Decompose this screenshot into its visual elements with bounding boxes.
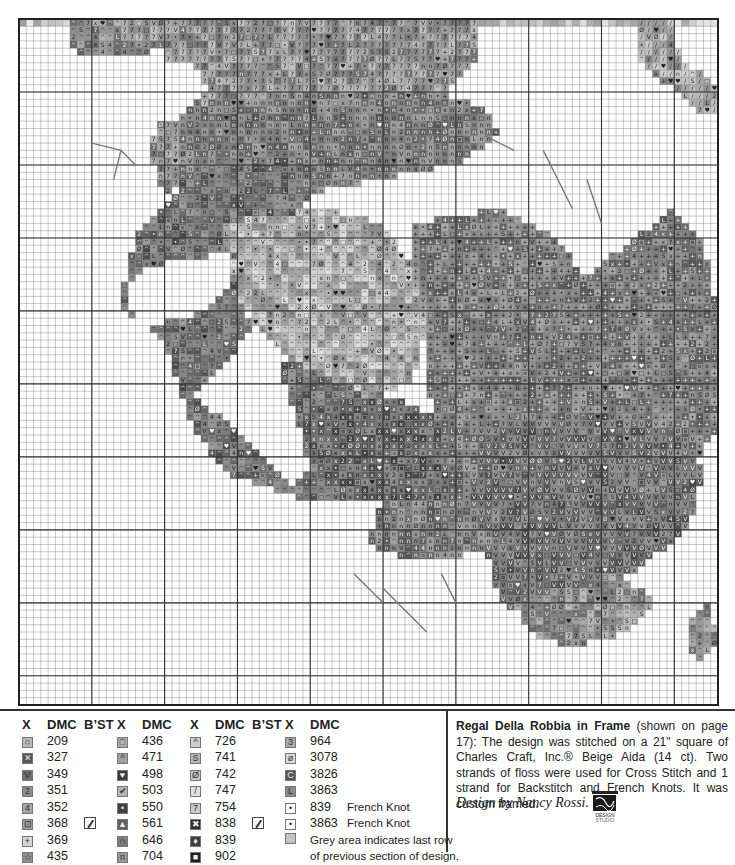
floss-symbol-icon: Ø: [190, 770, 201, 781]
legend-item: ^471: [117, 749, 179, 766]
legend-item: ■902: [190, 848, 282, 865]
dmc-number: 550: [142, 800, 179, 814]
dmc-number: 503: [142, 783, 179, 797]
floss-symbol-icon: [285, 833, 296, 844]
floss-symbol-icon: п: [117, 852, 128, 863]
dmc-number: 838: [215, 816, 252, 830]
floss-symbol-icon: ♦: [190, 836, 201, 847]
floss-symbol-icon: C: [285, 770, 296, 781]
legend-note: French Knot: [347, 801, 410, 813]
designer-byline: Design by Nancy Rossi.: [456, 795, 589, 811]
floss-symbol-icon: ø: [285, 753, 296, 764]
floss-symbol-icon: •: [285, 803, 296, 814]
legend-header-x: X: [117, 717, 142, 732]
legend-header: XDMC: [117, 716, 179, 733]
legend-item: ♦839: [190, 832, 282, 849]
legend-note: French Knot: [347, 817, 410, 829]
legend-item: of previous section of design.: [285, 848, 459, 865]
dmc-number: 327: [47, 750, 84, 764]
legend-item: ✖838: [190, 815, 282, 832]
floss-symbol-icon: 7: [190, 803, 201, 814]
dmc-number: 742: [215, 767, 252, 781]
legend-header: XDMC: [285, 716, 459, 733]
dmc-number: 839: [215, 833, 252, 847]
floss-symbol-icon: ☆: [22, 852, 33, 863]
legend-item: +369: [22, 832, 114, 849]
dmc-number: 902: [215, 849, 252, 863]
legend-item: ✔503: [117, 782, 179, 799]
floss-symbol-icon: ■: [190, 852, 201, 863]
dmc-number: 726: [215, 734, 252, 748]
dmc-number: 741: [215, 750, 252, 764]
legend-item: ☆435: [22, 848, 114, 865]
legend-item: ✕327: [22, 749, 114, 766]
legend-item: L3863: [285, 782, 459, 799]
legend-item: S741: [190, 749, 282, 766]
floss-symbol-icon: ✕: [22, 753, 33, 764]
floss-symbol-icon: •: [117, 803, 128, 814]
legend-item: □436: [117, 733, 179, 750]
dmc-number: 561: [142, 816, 179, 830]
legend-item: ♥498: [117, 766, 179, 783]
floss-symbol-icon: S: [190, 753, 201, 764]
legend-header-dmc: DMC: [142, 717, 179, 732]
legend-item: Ø742: [190, 766, 282, 783]
legend-header: XDMCB’ST: [22, 716, 114, 733]
legend-item: •550: [117, 799, 179, 816]
floss-symbol-icon: 3: [285, 737, 296, 748]
legend-column: XDMCB’ST^726S741Ø742/7477754✖838♦839■902: [190, 716, 282, 865]
dmc-number: 3826: [310, 767, 347, 781]
legend-header-x: X: [22, 717, 47, 732]
legend-column: XDMC3964ø3078C3826L3863•839French Knot•3…: [285, 716, 459, 865]
legend-item: 3964: [285, 733, 459, 750]
floss-symbol-icon: •: [285, 819, 296, 830]
floss-symbol-icon: 2: [22, 786, 33, 797]
legend-column: XDMCB’ST○209✕327V34923514352⊡368+369☆435: [22, 716, 114, 865]
legend-item: 2351: [22, 782, 114, 799]
dmc-number: 471: [142, 750, 179, 764]
floss-symbol-icon: ^: [117, 753, 128, 764]
legend-header-dmc: DMC: [47, 717, 84, 732]
floss-symbol-icon: ⊡: [22, 819, 33, 830]
legend-header: XDMCB’ST: [190, 716, 282, 733]
legend-item: /747: [190, 782, 282, 799]
legend-header-dmc: DMC: [310, 717, 347, 732]
dmc-number: 3863: [310, 816, 347, 830]
legend-column: XDMC□436^471♥498✔503•550▲561∩646п704: [117, 716, 179, 865]
cross-stitch-chart: [0, 0, 735, 710]
floss-symbol-icon: ∩: [117, 836, 128, 847]
legend-item: V349: [22, 766, 114, 783]
design-title: Regal Della Robbia in Frame: [456, 719, 630, 733]
dmc-number: 839: [310, 800, 347, 814]
legend-divider: [0, 709, 735, 711]
legend-item: п704: [117, 848, 179, 865]
floss-symbol-icon: ○: [22, 737, 33, 748]
legend-header-x: X: [285, 717, 310, 732]
floss-symbol-icon: V: [22, 770, 33, 781]
dmc-number: 747: [215, 783, 252, 797]
dmc-number: 349: [47, 767, 84, 781]
dmc-number: 436: [142, 734, 179, 748]
legend-header-bst: B’ST: [84, 717, 114, 732]
floss-symbol-icon: ♥: [117, 770, 128, 781]
legend-item: •3863French Knot: [285, 815, 459, 832]
legend-item: 4352: [22, 799, 114, 816]
legend-item: Grey area indicates last row: [285, 832, 459, 849]
svg-text:STUDIO: STUDIO: [596, 817, 615, 823]
floss-symbol-icon: ✖: [190, 819, 201, 830]
dmc-number: 351: [47, 783, 84, 797]
dmc-number: 435: [47, 849, 84, 863]
dmc-number: 368: [47, 816, 84, 830]
backstitch-icon: [84, 817, 96, 829]
floss-symbol-icon: □: [117, 737, 128, 748]
legend-item: •839French Knot: [285, 799, 459, 816]
dmc-number: 704: [142, 849, 179, 863]
legend-note: Grey area indicates last row: [310, 834, 453, 846]
legend-header-dmc: DMC: [215, 717, 252, 732]
floss-symbol-icon: ✔: [117, 786, 128, 797]
legend-item: ∩646: [117, 832, 179, 849]
legend-item: ø3078: [285, 749, 459, 766]
dmc-number: 964: [310, 734, 347, 748]
legend-note: of previous section of design.: [310, 850, 459, 862]
legend-header-bst: B’ST: [252, 717, 282, 732]
